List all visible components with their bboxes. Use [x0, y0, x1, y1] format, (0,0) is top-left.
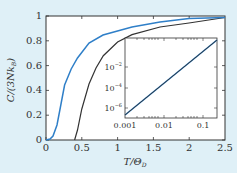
x-tick-labels: 0 0.5 1 1.5 2 2.5 — [43, 142, 233, 153]
svg-text:0: 0 — [36, 134, 42, 145]
svg-text:1: 1 — [36, 10, 42, 21]
svg-text:0.8: 0.8 — [26, 35, 42, 46]
svg-text:0.6: 0.6 — [26, 60, 42, 71]
y-axis-label: C/(3NkB) — [5, 58, 17, 103]
svg-text:0: 0 — [43, 142, 49, 153]
svg-text:1: 1 — [114, 142, 120, 153]
svg-text:0.001: 0.001 — [114, 121, 137, 130]
svg-text:2.5: 2.5 — [217, 142, 233, 153]
svg-text:1.5: 1.5 — [145, 142, 161, 153]
svg-text:0.4: 0.4 — [26, 84, 42, 95]
svg-text:0.01: 0.01 — [155, 121, 173, 130]
svg-text:2: 2 — [186, 142, 192, 153]
svg-text:0.5: 0.5 — [74, 142, 90, 153]
y-tick-labels: 0 0.2 0.4 0.6 0.8 1 — [26, 10, 42, 145]
x-axis-label: T/ΘD — [123, 156, 146, 168]
heat-capacity-chart: 0 0.2 0.4 0.6 0.8 1 0 0.5 1 1.5 2 2.5 T/… — [0, 0, 237, 173]
svg-text:0.2: 0.2 — [26, 109, 42, 120]
svg-text:0.1: 0.1 — [197, 121, 210, 130]
